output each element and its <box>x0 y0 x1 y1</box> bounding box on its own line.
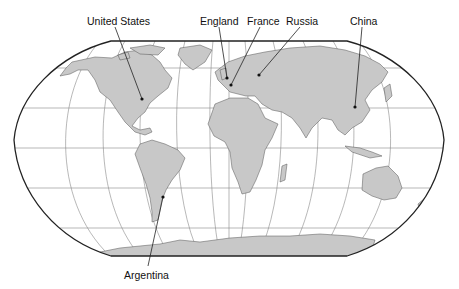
label-england: England <box>200 15 239 27</box>
label-china: China <box>350 15 377 27</box>
label-france: France <box>247 15 280 27</box>
marker-france <box>229 83 232 86</box>
label-united-states: United States <box>87 15 150 27</box>
marker-russia <box>257 73 260 76</box>
label-argentina: Argentina <box>124 269 169 281</box>
marker-united-states <box>140 97 143 100</box>
marker-england <box>225 76 228 79</box>
label-russia: Russia <box>286 15 318 27</box>
marker-argentina <box>161 195 164 198</box>
map-canvas <box>0 0 459 289</box>
world-map: United States England France Russia Chin… <box>0 0 459 289</box>
marker-china <box>353 105 356 108</box>
